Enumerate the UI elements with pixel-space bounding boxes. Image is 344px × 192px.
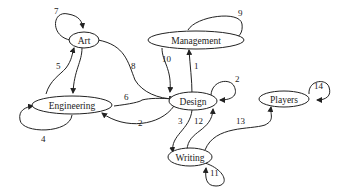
edge-label-10: 10	[162, 54, 172, 64]
edge-art-engineering	[73, 48, 82, 93]
node-management-label: Management	[171, 36, 221, 46]
node-management[interactable]: Management	[148, 31, 244, 49]
node-writing-label: Writing	[175, 153, 204, 163]
node-art[interactable]: Art	[69, 32, 99, 48]
edge-label-3: 3	[178, 116, 183, 126]
edge-label-2-self: 2	[235, 74, 240, 84]
edge-label-1: 1	[194, 61, 199, 71]
edge-engineering-design	[114, 98, 174, 106]
node-players[interactable]: Players	[259, 91, 309, 107]
edge-label-12: 12	[194, 116, 203, 126]
edge-label-8: 8	[131, 61, 136, 71]
edge-art-design	[98, 40, 175, 99]
edge-label-7: 7	[54, 6, 59, 16]
edge-label-4: 4	[41, 134, 46, 144]
edge-label-6: 6	[124, 92, 129, 102]
node-players-label: Players	[270, 95, 298, 105]
node-engineering[interactable]: Engineering	[32, 96, 112, 114]
edge-label-11: 11	[210, 168, 219, 178]
node-engineering-label: Engineering	[49, 101, 96, 111]
edge-design-management	[189, 50, 192, 94]
node-writing[interactable]: Writing	[168, 148, 212, 166]
node-design[interactable]: Design	[169, 92, 217, 110]
edge-label-13: 13	[236, 116, 246, 126]
graph-canvas: Art Management Engineering Design Player…	[0, 0, 344, 192]
edge-engineering-art	[46, 48, 74, 94]
node-design-label: Design	[180, 97, 207, 107]
node-art-label: Art	[78, 36, 91, 46]
edge-writing-players	[205, 107, 271, 150]
edge-label-9: 9	[238, 8, 243, 18]
edge-label-14: 14	[314, 81, 324, 91]
edge-label-5: 5	[56, 61, 61, 71]
edge-label-2: 2	[138, 118, 143, 128]
